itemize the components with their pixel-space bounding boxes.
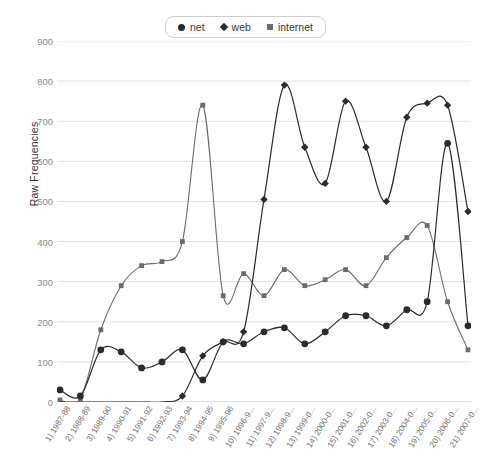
data-point-marker [403,306,410,313]
legend-label-internet: internet [278,21,313,33]
data-point-marker [159,358,166,365]
data-point-marker [221,293,226,298]
data-point-marker [464,208,471,215]
data-point-marker [138,365,145,372]
data-point-marker [240,340,247,347]
y-tick-label: 300 [19,276,53,287]
square-marker-icon [267,24,273,30]
data-point-marker [322,328,329,335]
data-point-marker [425,223,430,228]
circle-marker-icon [178,24,185,31]
data-point-marker [57,387,63,394]
data-point-marker [200,103,205,108]
data-point-marker [301,340,308,347]
data-point-marker [424,99,431,106]
series-line-net [60,143,468,398]
series-line-internet [60,105,468,402]
data-point-marker [199,377,206,384]
plot-area [57,41,471,402]
data-point-marker [384,255,389,260]
data-point-marker [118,348,125,355]
data-point-marker [179,346,186,353]
data-point-marker [240,328,247,335]
data-point-marker [343,267,348,272]
y-tick-label: 600 [19,156,53,167]
data-point-marker [119,283,124,288]
data-point-marker [262,293,267,298]
data-point-marker [302,283,307,288]
data-point-marker [364,283,369,288]
y-tick-label: 200 [19,316,53,327]
data-point-marker [363,312,370,319]
data-point-marker [77,393,84,400]
y-tick-label: 900 [19,36,53,47]
data-point-marker [323,277,328,282]
y-tick-label: 700 [19,116,53,127]
x-axis-ticks: 1) 1987-882) 1988-893) 1989-904) 1990-91… [57,404,477,472]
data-point-marker [424,298,431,305]
data-point-marker [260,196,267,203]
data-point-marker [362,144,369,151]
chart-legend: net web internet [165,16,326,38]
data-point-marker [445,299,450,304]
data-point-marker [160,259,165,264]
data-point-marker [466,347,471,352]
data-point-marker [97,346,104,353]
data-point-marker [139,263,144,268]
data-point-marker [383,198,390,205]
data-point-marker [281,81,288,88]
data-point-marker [241,271,246,276]
y-tick-label: 800 [19,76,53,87]
legend-label-net: net [190,21,205,33]
data-point-marker [444,102,451,109]
data-point-marker [180,239,185,244]
y-tick-label: 500 [19,196,53,207]
line-chart: net web internet Raw Frequencies 0100200… [0,0,481,472]
y-tick-label: 0 [19,397,53,408]
data-point-marker [342,97,349,104]
data-point-marker [403,114,410,121]
legend-label-web: web [232,21,251,33]
data-point-marker [220,338,227,345]
data-point-marker [281,324,288,331]
data-point-marker [404,235,409,240]
diamond-marker-icon [219,23,227,31]
data-point-marker [98,327,103,332]
data-point-marker [444,140,451,147]
plot-svg [57,41,471,402]
data-point-marker [282,267,287,272]
data-point-marker [465,322,471,329]
legend-item-web[interactable]: web [221,21,251,33]
y-tick-label: 100 [19,356,53,367]
legend-item-net[interactable]: net [178,21,205,33]
data-point-marker [301,144,308,151]
data-point-marker [322,180,329,187]
data-point-marker [261,328,268,335]
y-tick-label: 400 [19,236,53,247]
data-point-marker [383,322,390,329]
data-point-marker [58,398,63,402]
data-point-marker [342,312,349,319]
y-axis-ticks: 0100200300400500600700800900 [0,0,53,472]
legend-item-internet[interactable]: internet [267,21,313,33]
